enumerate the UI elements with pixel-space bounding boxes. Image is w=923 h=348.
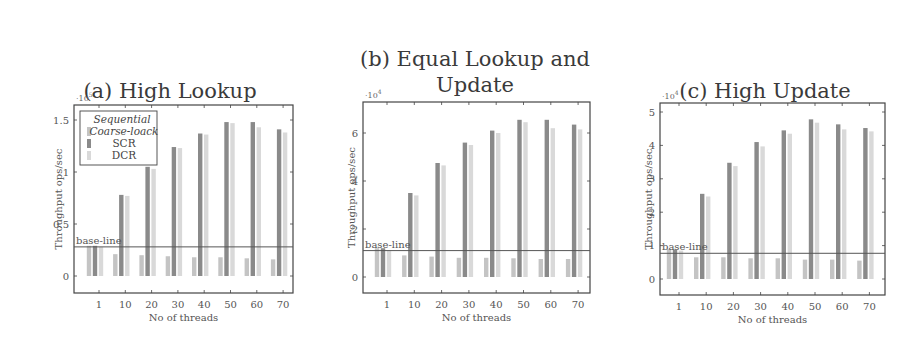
chart-panel-b: ·1040246Throughput ops/sec11020304050607… xyxy=(346,88,590,323)
bar-scr xyxy=(700,194,704,279)
bar-dcr xyxy=(230,123,234,276)
bar-dcr xyxy=(125,196,129,276)
svg-text:SCR: SCR xyxy=(112,137,136,149)
bar-scr xyxy=(145,167,149,276)
bar-dcr xyxy=(387,251,391,277)
bar-scr xyxy=(463,143,467,277)
bar-scr xyxy=(545,120,549,277)
bar-scr xyxy=(224,122,228,276)
bar-dcr xyxy=(815,123,819,279)
chart-legend: SequentialCoarse-loackSCRDCR xyxy=(80,111,158,165)
svg-text:20: 20 xyxy=(727,301,740,312)
bar-coarse xyxy=(776,258,780,279)
svg-text:50: 50 xyxy=(517,299,530,310)
svg-text:Throughput ops/sec: Throughput ops/sec xyxy=(346,147,357,248)
bar-dcr xyxy=(178,148,182,276)
bar-dcr xyxy=(842,129,846,279)
svg-text:base-line: base-line xyxy=(76,235,122,246)
bar-dcr xyxy=(441,165,445,277)
svg-text:40: 40 xyxy=(490,299,503,310)
svg-text:40: 40 xyxy=(198,299,211,310)
svg-text:0: 0 xyxy=(649,274,655,285)
bar-dcr xyxy=(523,122,527,277)
svg-text:·105: ·105 xyxy=(76,91,93,103)
svg-text:30: 30 xyxy=(463,299,476,310)
svg-text:20: 20 xyxy=(435,299,448,310)
svg-text:30: 30 xyxy=(754,301,767,312)
chart-panel-c: ·104012345Throughput ops/sec110203040506… xyxy=(643,89,885,325)
svg-text:70: 70 xyxy=(863,301,876,312)
svg-text:6: 6 xyxy=(352,128,358,139)
bar-scr xyxy=(517,120,521,277)
bar-coarse xyxy=(218,257,222,276)
bar-scr xyxy=(172,147,176,276)
bar-dcr xyxy=(679,251,683,279)
svg-text:Throughput ops/sec: Throughput ops/sec xyxy=(53,148,64,249)
bar-scr xyxy=(277,129,281,276)
bar-scr xyxy=(673,250,677,279)
bar-coarse xyxy=(139,255,143,276)
bar-scr xyxy=(490,131,494,277)
bar-coarse xyxy=(566,259,570,277)
svg-text:10: 10 xyxy=(408,299,421,310)
svg-text:60: 60 xyxy=(250,299,263,310)
bar-dcr xyxy=(414,195,418,277)
bar-coarse xyxy=(87,246,91,276)
bar-dcr xyxy=(551,128,555,277)
bar-dcr xyxy=(869,131,873,279)
bar-scr xyxy=(381,248,385,277)
bar-scr xyxy=(863,128,867,279)
bar-coarse xyxy=(694,257,698,279)
svg-text:60: 60 xyxy=(836,301,849,312)
svg-text:No of threads: No of threads xyxy=(442,312,512,323)
svg-text:70: 70 xyxy=(277,299,290,310)
bar-scr xyxy=(198,134,202,276)
bar-coarse xyxy=(113,254,117,276)
svg-text:DCR: DCR xyxy=(112,149,137,161)
svg-text:1: 1 xyxy=(96,299,102,310)
bar-scr xyxy=(809,119,813,279)
svg-text:20: 20 xyxy=(145,299,158,310)
svg-text:base-line: base-line xyxy=(662,241,708,252)
bar-coarse xyxy=(484,258,488,277)
svg-text:Coarse-loack: Coarse-loack xyxy=(90,125,159,137)
bar-dcr xyxy=(496,133,500,277)
svg-text:Throughput ops/sec: Throughput ops/sec xyxy=(643,148,654,249)
bar-coarse xyxy=(830,260,834,279)
svg-text:No of threads: No of threads xyxy=(149,312,219,323)
bar-dcr xyxy=(283,132,287,276)
svg-text:0: 0 xyxy=(352,272,358,283)
bar-dcr xyxy=(99,247,103,276)
svg-text:1.5: 1.5 xyxy=(53,115,69,126)
bar-coarse xyxy=(192,257,196,276)
bar-scr xyxy=(782,130,786,279)
bar-coarse xyxy=(402,255,406,277)
svg-text:·104: ·104 xyxy=(662,89,679,101)
figure-charts: ·10500.511.5Throughput ops/sec1102030405… xyxy=(0,0,923,348)
bar-coarse xyxy=(457,258,461,277)
bar-coarse xyxy=(539,259,543,277)
bar-coarse xyxy=(375,248,379,277)
bar-scr xyxy=(93,246,97,276)
bar-coarse xyxy=(166,256,170,276)
svg-text:·104: ·104 xyxy=(365,88,382,100)
bar-dcr xyxy=(578,129,582,277)
bar-scr xyxy=(754,142,758,279)
bar-coarse xyxy=(748,258,752,279)
bar-scr xyxy=(435,163,439,277)
svg-text:30: 30 xyxy=(172,299,185,310)
bar-dcr xyxy=(733,166,737,279)
svg-text:10: 10 xyxy=(119,299,132,310)
bar-scr xyxy=(251,122,255,276)
bar-dcr xyxy=(706,197,710,279)
bar-scr xyxy=(836,124,840,279)
svg-text:No of threads: No of threads xyxy=(738,314,808,325)
bar-coarse xyxy=(429,257,433,277)
svg-text:Sequential: Sequential xyxy=(93,113,150,125)
bar-coarse xyxy=(803,260,807,279)
bar-scr xyxy=(727,163,731,279)
svg-text:1: 1 xyxy=(676,301,682,312)
svg-text:50: 50 xyxy=(224,299,237,310)
bar-coarse xyxy=(271,259,275,276)
bar-dcr xyxy=(788,134,792,279)
